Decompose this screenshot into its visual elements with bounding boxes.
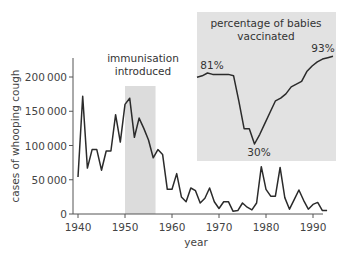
inset-title-line1: percentage of babies: [210, 17, 321, 29]
x-tick-label: 1960: [159, 221, 186, 233]
x-tick-label: 1950: [112, 221, 139, 233]
pct-end-label: 93%: [311, 42, 334, 54]
x-axis-title: year: [184, 236, 208, 248]
y-tick-label: 50 000: [32, 174, 68, 186]
x-tick-label: 1990: [300, 221, 327, 233]
x-tick-label: 1940: [65, 221, 92, 233]
chart-canvas: 050 000100 000150 000200 000 19401950196…: [0, 0, 351, 257]
x-tick-label: 1970: [206, 221, 233, 233]
y-tick-label: 0: [60, 208, 67, 220]
y-tick-label: 150 000: [25, 105, 67, 117]
y-tick-label: 200 000: [25, 71, 67, 83]
x-axis-ticks: 194019501960197019801990: [65, 214, 327, 233]
y-tick-label: 100 000: [25, 140, 67, 152]
x-tick-label: 1980: [253, 221, 280, 233]
pct-min-label: 30%: [247, 146, 270, 158]
y-axis-title: cases of whooping cough: [9, 70, 21, 203]
pct-start-label: 81%: [200, 59, 223, 71]
immunisation-label-line1: immunisation: [107, 52, 179, 64]
immunisation-label-line2: introduced: [115, 65, 171, 77]
inset-title-line2: vaccinated: [237, 30, 294, 42]
y-axis-ticks: 050 000100 000150 000200 000: [25, 71, 73, 220]
